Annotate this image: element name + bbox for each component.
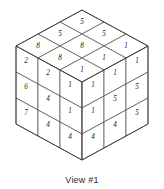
top-cell-label: 8 (36, 42, 40, 50)
left-cell-label: 1 (68, 81, 72, 89)
left-cell-label: 4 (68, 133, 72, 141)
top-cell-label: 5 (102, 30, 106, 38)
right-cell-label: 1 (135, 57, 139, 65)
right-cell-label: 4 (113, 121, 117, 129)
top-cell-label: 5 (80, 18, 84, 26)
right-cell-label: 5 (135, 83, 139, 91)
top-cell-label: 8 (80, 42, 84, 50)
right-cell-label: 4 (91, 133, 95, 141)
top-cell-label: 1 (80, 66, 84, 74)
top-cell-label: 8 (58, 54, 62, 62)
top-cell-label: 5 (58, 30, 62, 38)
left-cell-label: 2 (46, 69, 50, 77)
top-cell-label: 1 (102, 54, 106, 62)
left-cell-label: 6 (24, 83, 28, 91)
figure-stage: 5 5 1 5 8 1 8 8 1 2 2 1 (0, 0, 164, 189)
right-cell-label: 1 (113, 69, 117, 77)
left-cell-label: 1 (68, 107, 72, 115)
top-cell-label: 1 (124, 42, 128, 50)
left-cell-label: 2 (24, 57, 28, 65)
left-cell-label: 4 (46, 95, 50, 103)
right-cell-label: 1 (91, 81, 95, 89)
left-cell-label: 4 (46, 121, 50, 129)
right-cell-label: 5 (135, 109, 139, 117)
left-cell-label: 7 (24, 109, 28, 117)
right-cell-label: 1 (91, 107, 95, 115)
isometric-cube-figure: 5 5 1 5 8 1 8 8 1 2 2 1 (0, 0, 164, 189)
figure-caption: View #1 (0, 175, 164, 185)
right-cell-label: 5 (113, 95, 117, 103)
